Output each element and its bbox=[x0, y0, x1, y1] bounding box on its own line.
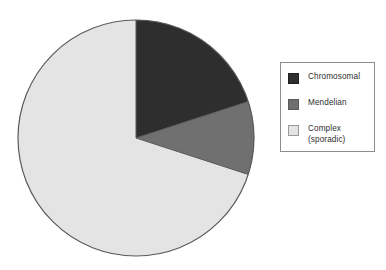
legend-swatch-chromosomal bbox=[288, 73, 299, 84]
legend-item-list: Chromosomal Mendelian Complex (sporadic) bbox=[281, 63, 374, 151]
chart-legend: Chromosomal Mendelian Complex (sporadic) bbox=[280, 62, 375, 152]
legend-label-mendelian: Mendelian bbox=[308, 98, 347, 109]
legend-label-chromosomal: Chromosomal bbox=[308, 72, 360, 83]
legend-swatch-mendelian bbox=[288, 99, 299, 110]
legend-swatch-complex-sporadic bbox=[288, 125, 299, 136]
legend-label-complex-sporadic: Complex (sporadic) bbox=[308, 124, 345, 145]
legend-item-chromosomal[interactable]: Chromosomal bbox=[288, 72, 360, 84]
pie-chart-figure: Chromosomal Mendelian Complex (sporadic) bbox=[0, 0, 386, 270]
legend-item-complex-sporadic[interactable]: Complex (sporadic) bbox=[288, 124, 345, 145]
legend-item-mendelian[interactable]: Mendelian bbox=[288, 98, 347, 110]
